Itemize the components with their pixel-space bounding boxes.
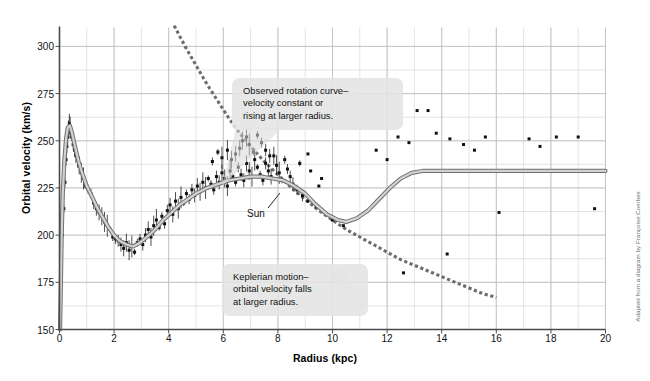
data-point [386, 158, 389, 161]
data-point [268, 154, 271, 157]
data-point [286, 168, 289, 171]
data-point [528, 137, 531, 140]
data-point [306, 152, 309, 155]
data-point [261, 179, 264, 182]
data-point [298, 162, 301, 165]
data-point [484, 135, 487, 138]
data-point [342, 224, 345, 227]
data-point [289, 175, 292, 178]
data-point [256, 166, 259, 169]
data-point [207, 177, 210, 180]
data-point [226, 149, 229, 152]
data-point [555, 135, 558, 138]
annotation-line: at larger radius. [233, 296, 358, 308]
data-point [448, 137, 451, 140]
data-point [128, 249, 131, 252]
annotation-observed-rotation-curve: Observed rotation curve– velocity consta… [232, 78, 403, 130]
data-point [220, 171, 223, 174]
data-point [147, 228, 150, 231]
annotation-line: Keplerian motion– [233, 271, 358, 283]
data-point [283, 158, 286, 161]
data-point [462, 143, 465, 146]
data-point [211, 160, 214, 163]
data-point [473, 149, 476, 152]
data-point [272, 154, 275, 157]
data-point [435, 132, 438, 135]
annotation-line: velocity constant or [243, 97, 393, 109]
data-point [278, 171, 281, 174]
annotation-line: rising at larger radius. [243, 110, 393, 122]
data-point [264, 162, 267, 165]
data-point [416, 109, 419, 112]
data-point [179, 196, 182, 199]
data-point [160, 215, 163, 218]
data-point [317, 185, 320, 188]
data-point [538, 145, 541, 148]
data-point [201, 181, 204, 184]
data-points-group [61, 109, 596, 274]
annotation-line: Observed rotation curve– [243, 85, 393, 97]
keplerian-curve [174, 26, 496, 298]
data-point [215, 175, 218, 178]
data-point [196, 185, 199, 188]
data-point [133, 251, 136, 254]
annotation-line: orbital velocity falls [233, 283, 358, 295]
sun-label: Sun [247, 208, 265, 219]
data-point [267, 169, 270, 172]
data-point [446, 253, 449, 256]
data-point [166, 209, 169, 212]
data-point [375, 149, 378, 152]
data-point [190, 188, 193, 191]
data-point [264, 149, 267, 152]
data-point [216, 151, 219, 154]
data-point [253, 158, 256, 161]
data-point [402, 271, 405, 274]
data-point [220, 156, 223, 159]
rotation-curve-figure: Orbital velocity (km/s) Radius (kpc) Ada… [0, 0, 650, 381]
annotation-keplerian-motion: Keplerian motion– orbital velocity falls… [222, 264, 368, 316]
data-point [427, 109, 430, 112]
data-point [226, 185, 229, 188]
plot-area [0, 0, 650, 381]
data-point [320, 177, 323, 180]
data-point [498, 211, 501, 214]
data-point [275, 164, 278, 167]
data-point [240, 173, 243, 176]
data-point [155, 219, 158, 222]
data-point [397, 135, 400, 138]
data-point [174, 200, 177, 203]
data-point [169, 203, 172, 206]
data-point [185, 192, 188, 195]
data-point [122, 247, 125, 250]
data-point [593, 207, 596, 210]
data-point [309, 169, 312, 172]
data-point [212, 188, 215, 191]
data-point [248, 169, 251, 172]
data-point [577, 135, 580, 138]
data-point [407, 141, 410, 144]
